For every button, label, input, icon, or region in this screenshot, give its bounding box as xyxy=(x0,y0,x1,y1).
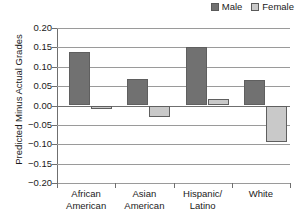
x-axis-separator xyxy=(115,183,116,188)
y-axis-tick-label: −0.20 xyxy=(16,178,52,188)
legend-swatch-male xyxy=(211,3,219,11)
x-axis-separator xyxy=(232,183,233,188)
bar-male-1 xyxy=(127,79,148,105)
chart-legend: Male Female xyxy=(211,2,294,12)
x-axis-label-line: White xyxy=(232,188,290,200)
x-axis-label-1: AsianAmerican xyxy=(115,188,173,212)
x-axis-separator xyxy=(174,183,175,188)
x-axis-label-0: AfricanAmerican xyxy=(57,188,115,212)
bar-male-3 xyxy=(244,80,265,106)
y-axis-tick-label: 0.00 xyxy=(16,101,52,111)
y-axis-tick-label: −0.10 xyxy=(16,139,52,149)
x-axis-label-line: Latino xyxy=(174,200,232,212)
x-axis-label-line: Hispanic/ xyxy=(174,188,232,200)
plot-area xyxy=(57,28,290,183)
x-axis-label-3: White xyxy=(232,188,290,200)
y-axis-tick-label: 0.10 xyxy=(16,62,52,72)
bar-male-2 xyxy=(186,47,207,106)
y-axis-tick-label: 0.05 xyxy=(16,81,52,91)
x-axis-separator xyxy=(57,183,58,188)
x-axis-label-line: African xyxy=(57,188,115,200)
x-axis-label-2: Hispanic/Latino xyxy=(174,188,232,212)
x-axis-separator xyxy=(290,183,291,188)
x-axis-label-line: American xyxy=(57,200,115,212)
x-axis-label-line: American xyxy=(115,200,173,212)
legend-item-female: Female xyxy=(251,2,294,12)
x-axis-tick-labels: AfricanAmericanAsianAmericanHispanic/Lat… xyxy=(57,188,290,220)
legend-swatch-female xyxy=(251,3,259,11)
y-axis-tick-label: −0.15 xyxy=(16,159,52,169)
y-axis-tick-label: 0.15 xyxy=(16,42,52,52)
bar-male-0 xyxy=(69,52,90,105)
x-axis-label-line: Asian xyxy=(115,188,173,200)
y-axis-tick-label: 0.20 xyxy=(16,23,52,33)
y-axis-tick-label: −0.05 xyxy=(16,120,52,130)
bar-female-2 xyxy=(208,99,229,105)
bar-chart: Male Female Predicted Minus Actual Grade… xyxy=(0,0,300,222)
legend-label-male: Male xyxy=(222,2,243,12)
bar-female-1 xyxy=(149,106,170,118)
bar-female-0 xyxy=(91,106,112,109)
legend-item-male: Male xyxy=(211,2,243,12)
legend-label-female: Female xyxy=(262,2,294,12)
bar-female-3 xyxy=(266,106,287,143)
